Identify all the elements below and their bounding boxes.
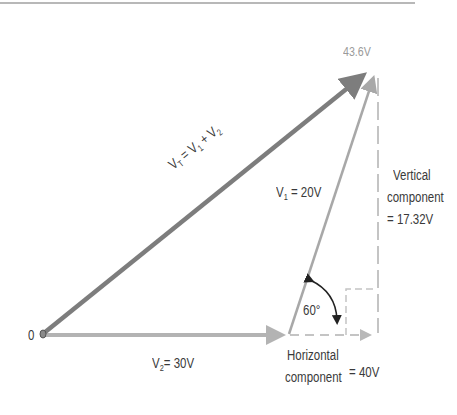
right-angle-marker — [346, 289, 377, 335]
origin-point — [40, 330, 46, 338]
horizontal-component-label-line1: Horizontal — [287, 347, 339, 363]
v1-label-value: = 20V — [288, 184, 322, 200]
angle-label: 60° — [303, 302, 320, 318]
vertical-component-value: = 17.32V — [387, 211, 433, 227]
origin-label: 0 — [28, 327, 34, 343]
v2-label-value: = 30V — [164, 355, 194, 371]
vertical-component-label-line2: component — [387, 189, 444, 205]
vertical-component-label-line1: Vertical — [393, 167, 431, 183]
horizontal-component-value: = 40V — [349, 364, 379, 380]
resultant-magnitude-label: 43.6V — [343, 44, 371, 59]
v1-label: V1 = 20V — [276, 184, 321, 202]
horizontal-component-label-line2: component — [285, 369, 342, 385]
v2-label: V2= 30V — [152, 355, 194, 373]
resultant-vector — [44, 78, 360, 333]
phasor-diagram — [0, 0, 457, 415]
